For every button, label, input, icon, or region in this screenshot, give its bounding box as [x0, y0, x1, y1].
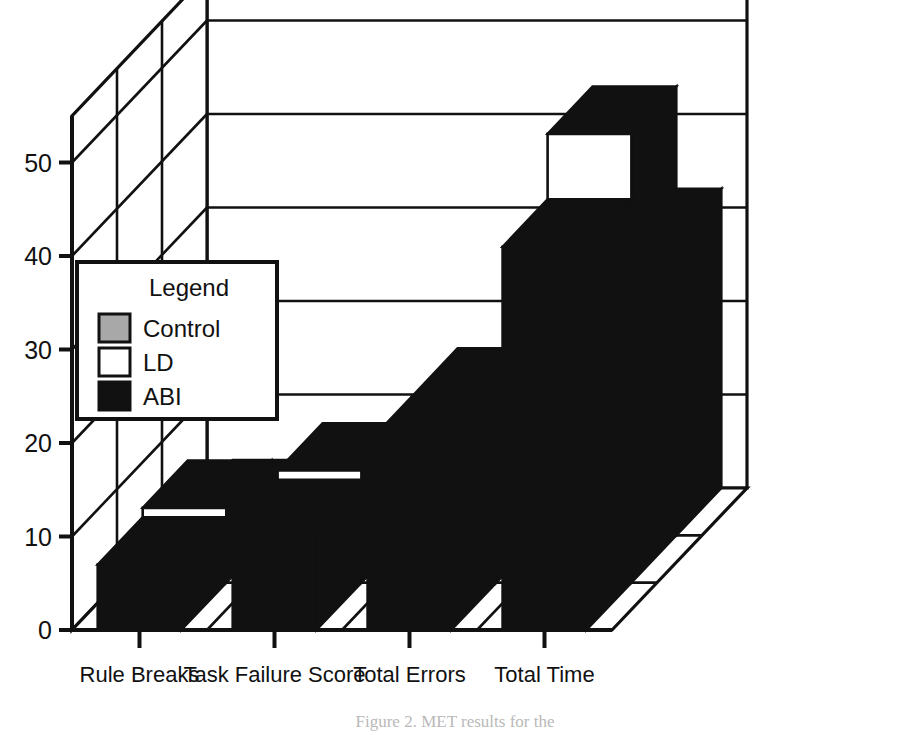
three-d-bar-chart: 01020304050Rule BreaksTask Failure Score… [0, 0, 910, 735]
bar-side-face [631, 87, 676, 583]
bar-front-face [503, 247, 587, 630]
bar-abi-2 [368, 396, 497, 630]
bar-side-face [676, 189, 721, 536]
chart-figure: 01020304050Rule BreaksTask Failure Score… [0, 0, 910, 735]
bar-front-face [98, 565, 182, 631]
y-tick-label-20: 20 [24, 429, 52, 457]
legend-label-control: Control [143, 315, 220, 342]
y-tick-label-50: 50 [24, 149, 52, 177]
legend-swatch-ld [99, 348, 130, 376]
legend-swatch-control [99, 314, 130, 342]
bar-front-face [368, 443, 452, 630]
bar-abi-3 [503, 199, 632, 630]
legend-title: Legend [149, 274, 229, 301]
bar-front-face [233, 527, 317, 630]
x-tick-label-0: Rule Breaks [80, 662, 200, 687]
y-tick-label-40: 40 [24, 242, 52, 270]
bar-side-face [586, 199, 631, 630]
y-tick-label-0: 0 [38, 616, 52, 644]
figure-caption: Figure 2. MET results for the [0, 712, 910, 732]
y-tick-label-10: 10 [24, 523, 52, 551]
x-tick-label-3: Total Time [494, 662, 594, 687]
legend-label-ld: LD [143, 349, 174, 376]
legend-box: LegendControlLDABI [77, 262, 277, 419]
legend-swatch-abi [99, 382, 130, 410]
x-tick-label-2: Total Errors [353, 662, 465, 687]
x-tick-label-1: Task Failure Score [183, 662, 365, 687]
legend-label-abi: ABI [143, 383, 182, 410]
y-tick-label-30: 30 [24, 336, 52, 364]
